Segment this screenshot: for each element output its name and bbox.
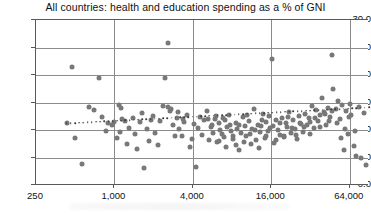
trendline-dot [225, 114, 227, 116]
plot-area [35, 19, 368, 184]
trendline-dot [309, 110, 311, 112]
trendline-dot [83, 122, 85, 124]
trendline-dot [74, 122, 76, 124]
trendline-dot [356, 107, 358, 109]
x-axis-tick-label: 16,000 [256, 190, 285, 201]
trendline-dot [314, 110, 316, 112]
trendline-dot [301, 110, 303, 112]
x-axis-tick-label: 1,000 [102, 190, 126, 201]
trendline-dot [70, 122, 72, 124]
trendline-dot [175, 117, 177, 119]
trendline-dot [91, 121, 93, 123]
trendline-dot [351, 108, 353, 110]
trendline-dot [162, 118, 164, 120]
trendline-dot [95, 121, 97, 123]
trendline-dot [242, 113, 244, 115]
trendline [36, 20, 368, 184]
x-axis-tick-label: 250 [27, 190, 43, 201]
trendline-dot [133, 119, 135, 121]
trendline-dot [217, 115, 219, 117]
trendline-dot [251, 113, 253, 115]
trendline-dot [284, 111, 286, 113]
trendline-dot [125, 120, 127, 122]
trendline-dot [263, 112, 265, 114]
trendline-dot [221, 114, 223, 116]
cropped-caption-artifact [70, 203, 290, 210]
x-axis-tick-label: 4,000 [180, 190, 204, 201]
trendline-dot [360, 107, 362, 109]
trendline-dot [154, 118, 156, 120]
trendline-dot [137, 119, 139, 121]
trendline-dot [66, 123, 68, 125]
trendline-dot [108, 120, 110, 122]
trendline-dot [335, 108, 337, 110]
trendline-dot [297, 110, 299, 112]
trendline-dot [246, 113, 248, 115]
trendline-dot [200, 116, 202, 118]
x-axis-tick-label: 64,000 [334, 190, 363, 201]
trendline-dot [267, 112, 269, 114]
trendline-dot [322, 109, 324, 111]
trendline-dot [234, 114, 236, 116]
trendline-dot [188, 116, 190, 118]
trendline-dot [78, 122, 80, 124]
chart-title: All countries: health and education spen… [0, 1, 371, 13]
trendline-dot [318, 109, 320, 111]
trendline-dot [305, 110, 307, 112]
trendline-dot [280, 111, 282, 113]
trendline-dot [259, 112, 261, 114]
trendline-dot [276, 112, 278, 114]
trendline-dot [364, 107, 366, 109]
trendline-dot [129, 119, 131, 121]
trendline-dot [99, 121, 101, 123]
trendline-dot [192, 116, 194, 118]
trendline-dot [368, 107, 370, 109]
trendline-dot [288, 111, 290, 113]
trendline-dot [330, 109, 332, 111]
trendline-dot [146, 118, 148, 120]
trendline-dot [120, 120, 122, 122]
trendline-dot [272, 112, 274, 114]
x-axis-line [35, 184, 368, 185]
trendline-dot [112, 120, 114, 122]
trendline-dot [343, 108, 345, 110]
trendline-dot [87, 121, 89, 123]
trendline-dot [230, 114, 232, 116]
trendline-dot [179, 117, 181, 119]
trendline-dot [326, 109, 328, 111]
trendline-dot [209, 115, 211, 117]
trendline-dot [339, 108, 341, 110]
trendline-dot [116, 120, 118, 122]
trendline-dot [347, 108, 349, 110]
trendline-dot [104, 121, 106, 123]
trendline-dot [150, 118, 152, 120]
trendline-dot [167, 117, 169, 119]
scatter-chart: All countries: health and education spen… [0, 0, 371, 213]
trendline-dot [158, 118, 160, 120]
trendline-dot [141, 119, 143, 121]
trendline-dot [171, 117, 173, 119]
trendline-dot [183, 116, 185, 118]
trendline-dot [293, 111, 295, 113]
trendline-dot [204, 115, 206, 117]
trendline-dot [255, 113, 257, 115]
trendline-dot [213, 115, 215, 117]
trendline-dot [238, 114, 240, 116]
trendline-dot [196, 116, 198, 118]
